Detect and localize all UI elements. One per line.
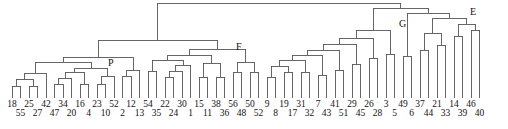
merge-link xyxy=(386,54,395,92)
merge-link xyxy=(323,44,356,64)
leaf-label: 43 xyxy=(322,108,332,118)
leaf-label: 17 xyxy=(288,108,298,118)
leaf-label: 11 xyxy=(203,108,212,118)
leaf-label: 20 xyxy=(67,108,77,118)
leaf-label: 52 xyxy=(109,99,119,109)
leaf-label: 9 xyxy=(265,99,270,109)
node-label-p: P xyxy=(108,58,114,68)
node-label-f: F xyxy=(236,42,242,52)
leaf-label: 36 xyxy=(220,108,230,118)
merge-link xyxy=(284,72,293,92)
leaf-label: 33 xyxy=(441,108,451,118)
merge-link xyxy=(237,62,254,72)
merge-link xyxy=(433,18,467,33)
merge-link xyxy=(250,72,259,92)
merge-link xyxy=(335,70,344,92)
merge-link xyxy=(301,72,310,92)
merge-link xyxy=(29,86,38,92)
leaf-label: 48 xyxy=(237,108,247,118)
merge-link-layer xyxy=(12,3,480,92)
merge-link xyxy=(267,77,276,92)
merge-link xyxy=(199,77,208,92)
merge-link xyxy=(437,45,446,92)
node-label-e: E xyxy=(470,7,476,17)
merge-link xyxy=(420,50,429,92)
merge-link xyxy=(123,76,132,92)
leaf-label: 35 xyxy=(152,108,162,118)
leaf-label: 52 xyxy=(254,108,264,118)
leaf-label: 7 xyxy=(316,99,321,109)
leaf-label: 28 xyxy=(373,108,383,118)
leaf-label: 51 xyxy=(339,108,349,118)
leaf-label: 8 xyxy=(273,108,278,118)
merge-link xyxy=(403,56,412,92)
merge-link xyxy=(216,77,225,92)
merge-link xyxy=(55,84,64,92)
merge-link xyxy=(369,58,378,92)
merge-link xyxy=(12,86,21,92)
dendrogram-figure: 1855252742473420164231052212135435222430… xyxy=(0,0,508,129)
leaf-label: 4 xyxy=(86,108,91,118)
merge-link xyxy=(203,63,220,77)
merge-link xyxy=(424,33,441,50)
merge-link xyxy=(97,84,106,92)
leaf-label: 55 xyxy=(16,108,26,118)
merge-link xyxy=(148,71,157,92)
leaf-label: 5 xyxy=(392,108,397,118)
merge-link xyxy=(471,30,480,92)
merge-link xyxy=(25,73,46,92)
leaf-label: 45 xyxy=(356,108,366,118)
merge-link xyxy=(98,40,218,57)
leaf-label: 3 xyxy=(384,99,389,109)
merge-link xyxy=(318,75,327,92)
merge-link xyxy=(59,78,72,92)
leaf-label: 49 xyxy=(398,99,408,109)
merge-link xyxy=(168,55,212,63)
merge-link xyxy=(35,62,91,73)
merge-link xyxy=(176,65,191,92)
merge-link xyxy=(233,72,242,92)
leaf-label: 10 xyxy=(101,108,111,118)
leaf-label: 44 xyxy=(424,108,434,118)
merge-link xyxy=(169,71,182,92)
node-label-g: G xyxy=(399,19,406,29)
merge-link xyxy=(307,50,339,70)
leaf-label: 6 xyxy=(409,108,414,118)
merge-link xyxy=(158,3,401,40)
merge-link xyxy=(16,79,33,86)
merge-link xyxy=(454,36,463,92)
leaf-label: 1 xyxy=(188,108,193,118)
merge-link xyxy=(271,66,288,77)
merge-link xyxy=(80,84,89,92)
leaf-label: 27 xyxy=(33,108,43,118)
leaf-label: 13 xyxy=(135,108,145,118)
leaf-label: 30 xyxy=(177,99,187,109)
leaf-label: 40 xyxy=(475,108,485,118)
leaf-label: 47 xyxy=(50,108,60,118)
merge-link xyxy=(352,64,361,92)
leaf-tick-layer xyxy=(12,92,480,98)
leaf-label: 24 xyxy=(169,108,179,118)
leaf-label: 16 xyxy=(75,99,85,109)
leaf-label: 32 xyxy=(305,108,315,118)
merge-link xyxy=(152,60,183,71)
leaf-label: 2 xyxy=(120,108,125,118)
leaf-label: 39 xyxy=(458,108,468,118)
merge-link xyxy=(127,70,140,92)
merge-link xyxy=(165,77,174,92)
